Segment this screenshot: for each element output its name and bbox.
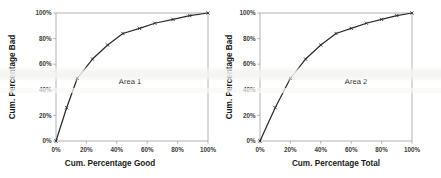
y-tick-label: 60% [243,60,256,67]
chart-panel-area-1: 0%20%40%60%80%100% 0%20%40%60%80%100% Cu… [0,0,220,178]
x-axis-title: Cum. Percentage Total [292,159,380,168]
y-tick-label: 60% [39,60,52,67]
x-axis-title: Cum. Percentage Good [65,159,156,168]
plot-frame [260,13,412,141]
y-tick-label: 40% [39,86,52,93]
y-tick-label: 20% [243,112,256,119]
x-axis-tick-labels: 0%20%40%60%80%100% [255,146,420,153]
x-tick-label: 60% [141,146,154,153]
x-tick-label: 40% [314,146,327,153]
x-tick-label: 0% [255,146,265,153]
y-axis-tick-labels: 0%20%40%60%80%100% [35,9,52,144]
x-tick-label: 20% [80,146,93,153]
figure-root: 0%20%40%60%80%100% 0%20%40%60%80%100% Cu… [0,0,441,178]
data-series-line [260,13,412,141]
x-tick-label: 60% [345,146,358,153]
chart-svg-area-2: 0%20%40%60%80%100% 0%20%40%60%80%100% Cu… [220,0,441,178]
y-tick-label: 80% [39,35,52,42]
x-tick-label: 80% [375,146,388,153]
y-axis-title: Cum. Percentage Bad [225,35,234,120]
y-axis-title: Cum. Percentage Bad [8,35,17,120]
y-tick-label: 0% [42,137,52,144]
x-tick-label: 100% [200,146,217,153]
y-tick-label: 80% [243,35,256,42]
chart-panel-area-2: 0%20%40%60%80%100% 0%20%40%60%80%100% Cu… [220,0,440,178]
data-point-markers [258,11,413,142]
x-tick-label: 20% [284,146,297,153]
area-annotation-label: Area 1 [119,77,141,86]
x-axis-tick-labels: 0%20%40%60%80%100% [51,146,216,153]
y-tick-label: 0% [246,137,256,144]
y-axis-tick-labels: 0%20%40%60%80%100% [239,9,256,144]
x-tick-label: 100% [404,146,421,153]
y-tick-label: 100% [35,9,52,16]
area-annotation-label: Area 2 [345,77,367,86]
x-tick-label: 80% [171,146,184,153]
y-tick-label: 100% [239,9,256,16]
x-tick-label: 40% [110,146,123,153]
y-tick-label: 40% [243,86,256,93]
chart-svg-area-1: 0%20%40%60%80%100% 0%20%40%60%80%100% Cu… [0,0,220,178]
x-tick-label: 0% [51,146,61,153]
y-tick-label: 20% [39,112,52,119]
